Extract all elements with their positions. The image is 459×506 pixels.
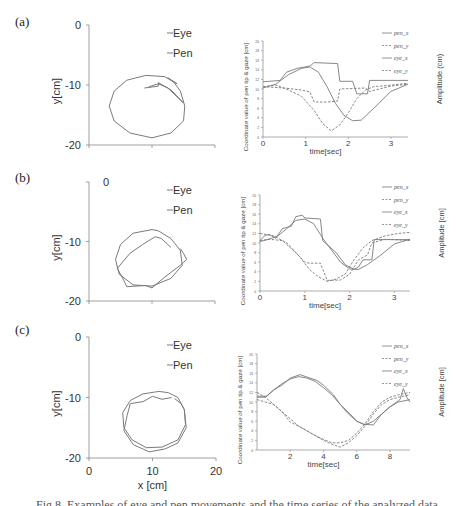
series-pen_x — [257, 375, 410, 425]
y-tick-label: -20 — [65, 452, 81, 464]
series-pen_y — [263, 84, 408, 102]
y-tick-label: 14 — [252, 222, 256, 226]
right-axis-label: Amplitude [cm] — [437, 208, 446, 258]
series-pen — [109, 75, 185, 137]
y-tick-label: 12 — [255, 78, 259, 82]
y-tick-label: 10 — [249, 401, 253, 405]
y-tick-label: 4 — [251, 429, 253, 433]
series-pen_y — [257, 395, 410, 447]
y-axis-label: Coordinate value of pen tip & gaze [cm] — [239, 197, 246, 306]
y-tick-label: 12 — [249, 391, 253, 395]
legend-label-pen: Pen — [173, 47, 193, 59]
y-tick-label: 18 — [255, 49, 259, 53]
x-tick-label: 0 — [261, 139, 266, 148]
x-tick-label: 1 — [303, 293, 308, 302]
x-tick-label: 3 — [389, 139, 394, 148]
x-tick-label: 0 — [86, 465, 92, 477]
y-tick-label: 6 — [254, 261, 256, 265]
y-tick-label: 0 — [103, 176, 109, 188]
y-axis-label: y[cm] — [50, 390, 62, 416]
trajectory-plot-c: 0-10-2001020x [cm]y[cm]EyePen — [50, 331, 222, 491]
y-tick-label: 0 — [75, 19, 81, 31]
y-tick-label: 8 — [251, 410, 253, 414]
y-tick-label: 2 — [257, 126, 259, 130]
legend-label-pen: Pen — [173, 359, 193, 371]
y-axis-label: y[cm] — [50, 78, 62, 104]
timeseries-plot-a: 024681012141618200123time[sec]Coordinate… — [242, 30, 444, 156]
x-axis-label: time[sec] — [309, 301, 341, 310]
legend-label-eye: Eye — [173, 184, 192, 196]
y-tick-label: 16 — [252, 213, 256, 217]
legend-label-pen_y: pen_y — [393, 43, 409, 49]
timeseries-plot-c: 024681012141618202468time[sec]Coordinate… — [236, 343, 446, 469]
figure-caption: Fig.8. Examples of eye and pen movements… — [36, 497, 456, 506]
y-tick-label: 18 — [252, 203, 256, 207]
trajectory-plot-b: 0-10-20y[cm]EyePen — [50, 176, 215, 307]
series-eye_x — [260, 219, 410, 269]
y-tick-label: 0 — [75, 331, 81, 343]
x-tick-label: 2 — [347, 293, 352, 302]
legend-label-eye_y: eye_y — [394, 222, 408, 228]
x-tick-label: 3 — [392, 293, 397, 302]
timeseries-plot-b: 024681012141618200123time[sec]Coordinate… — [239, 184, 446, 310]
y-tick-label: 0 — [251, 449, 253, 453]
series-eye_y — [257, 392, 410, 442]
x-axis-label: time[sec] — [309, 147, 341, 156]
legend-label-eye: Eye — [173, 27, 192, 39]
y-axis-label: Coordinate value of pen tip & gaze [cm] — [236, 356, 243, 465]
y-tick-label: 20 — [252, 194, 256, 198]
legend-label-eye_x: eye_x — [394, 368, 408, 374]
legend-label-pen_y: pen_y — [393, 197, 409, 203]
right-axis-label: Amplitude (cm) — [435, 53, 444, 104]
legend-label-eye_x: eye_x — [394, 55, 408, 61]
legend-label-pen_x: pen_x — [393, 343, 409, 349]
series-eye_y — [263, 83, 408, 131]
y-tick-label: 10 — [255, 88, 259, 92]
y-tick-label: 16 — [249, 372, 253, 376]
y-tick-label: 8 — [254, 251, 256, 255]
y-tick-label: 16 — [255, 59, 259, 63]
x-tick-label: 0 — [258, 293, 263, 302]
y-axis-label: Coordinate value of pen tip & gaze [cm] — [242, 43, 249, 152]
y-tick-label: 4 — [254, 270, 256, 274]
y-tick-label: 4 — [257, 116, 259, 120]
legend-label-pen_y: pen_y — [393, 356, 409, 362]
right-axis-label: Amplitude [cm] — [437, 367, 446, 417]
y-tick-label: 2 — [254, 280, 256, 284]
x-tick-label: 8 — [388, 452, 393, 461]
series-pen_y — [260, 239, 410, 280]
y-tick-label: 14 — [249, 381, 253, 385]
series-eye — [144, 83, 183, 103]
y-tick-label: 20 — [255, 40, 259, 44]
y-tick-label: -10 — [65, 79, 81, 91]
x-tick-label: 20 — [210, 465, 222, 477]
y-tick-label: 14 — [255, 68, 259, 72]
y-tick-label: 8 — [257, 97, 259, 101]
x-tick-label: 10 — [146, 465, 158, 477]
y-tick-label: -10 — [65, 392, 81, 404]
y-tick-label: 0 — [254, 290, 256, 294]
y-tick-label: 12 — [252, 232, 256, 236]
y-tick-label: 18 — [249, 362, 253, 366]
y-tick-label: 10 — [252, 242, 256, 246]
legend-label-eye: Eye — [173, 339, 192, 351]
y-tick-label: -10 — [65, 236, 81, 248]
x-tick-label: 2 — [288, 452, 293, 461]
x-tick-label: 6 — [355, 452, 360, 461]
legend-label-pen: Pen — [173, 204, 193, 216]
trajectory-plot-a: 0-10-20y[cm]EyePen — [50, 19, 215, 151]
figure-canvas: 0-10-20y[cm]EyePen024681012141618200123t… — [0, 0, 459, 506]
series-pen_x — [263, 63, 408, 94]
legend-label-pen_x: pen_x — [393, 30, 409, 36]
legend-label-pen_x: pen_x — [393, 184, 409, 190]
x-tick-label: 1 — [303, 139, 308, 148]
y-axis-label: y[cm] — [50, 234, 62, 260]
y-tick-label: 0 — [257, 136, 259, 140]
legend-label-eye_y: eye_y — [394, 381, 408, 387]
legend-label-eye_x: eye_x — [394, 209, 408, 215]
legend-label-eye_y: eye_y — [394, 68, 408, 74]
y-tick-label: -20 — [65, 295, 81, 307]
x-axis-label: x [cm] — [138, 479, 167, 491]
series-pen_x — [260, 215, 410, 269]
y-tick-label: 2 — [251, 439, 253, 443]
